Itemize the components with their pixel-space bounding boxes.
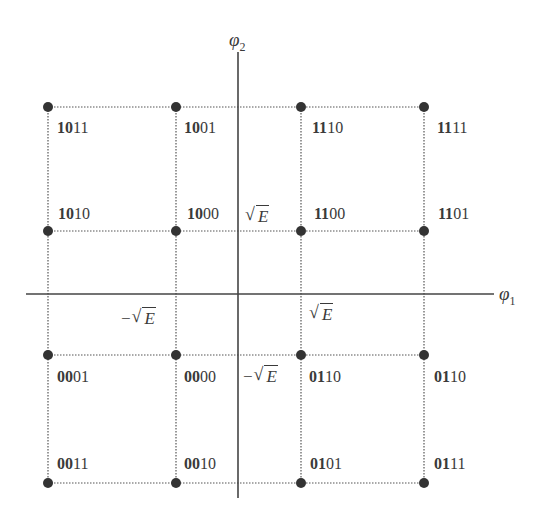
point-label: 0011	[57, 456, 88, 472]
point-label: 1011	[57, 120, 88, 136]
point-label: 1010	[58, 206, 90, 222]
point-label: 0001	[57, 369, 89, 385]
point-label: 1111	[437, 120, 468, 136]
point-label: 0110	[434, 369, 466, 385]
point-label: 0110	[309, 369, 341, 385]
point-label: 0010	[184, 456, 216, 472]
point-label: 1101	[438, 206, 469, 222]
phi1-axis-label: φ1	[499, 284, 516, 307]
neg-x-tick-label: −√E	[120, 310, 156, 327]
point-label: 0000	[184, 369, 216, 385]
point-label: 1001	[184, 120, 216, 136]
constellation-plot	[0, 0, 544, 520]
neg-y-tick-label: −√E	[242, 368, 278, 385]
constellation-points	[43, 102, 429, 488]
point-label: 1000	[187, 206, 219, 222]
point-label: 1110	[312, 120, 343, 136]
grid-lines	[48, 107, 424, 483]
point-label: 0101	[310, 456, 342, 472]
pos-x-tick-label: √E	[309, 306, 333, 323]
point-label: 1100	[314, 206, 345, 222]
pos-y-tick-label: √E	[245, 208, 269, 225]
point-label: 0111	[434, 456, 465, 472]
phi2-axis-label: φ2	[229, 30, 246, 53]
